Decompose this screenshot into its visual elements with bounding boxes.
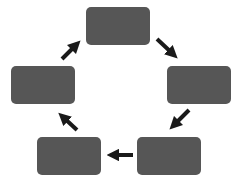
arrow-left-to-top-icon — [62, 45, 76, 59]
arrow-top-to-right-icon — [157, 39, 173, 54]
node-top — [86, 7, 150, 45]
node-left — [11, 66, 75, 104]
arrow-bottom-left-to-left-icon — [63, 117, 77, 130]
arrow-right-to-bottom-right-icon — [174, 110, 189, 125]
node-bottom-left — [37, 137, 101, 175]
node-right — [167, 66, 231, 104]
node-bottom-right — [137, 137, 201, 175]
